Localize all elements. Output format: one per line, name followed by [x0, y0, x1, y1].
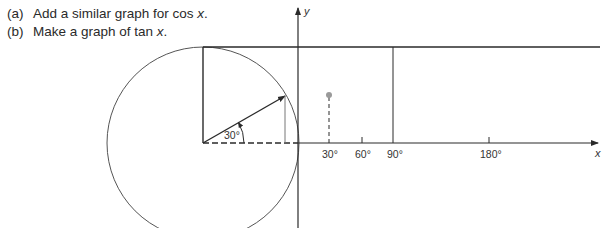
x-axis-label: x [594, 147, 601, 159]
x-tick-label-180: 180° [480, 148, 502, 160]
unit-circle-diagram: y x 30° 30° 60° 90° 180° [0, 0, 604, 228]
x-tick-label-30: 30° [322, 148, 338, 160]
x-tick-label-90: 90° [387, 148, 403, 160]
radius-vector [203, 96, 285, 143]
sine-point-30 [326, 92, 332, 98]
angle-label: 30° [224, 129, 240, 141]
y-axis-label: y [303, 5, 311, 17]
x-tick-label-60: 60° [355, 148, 371, 160]
